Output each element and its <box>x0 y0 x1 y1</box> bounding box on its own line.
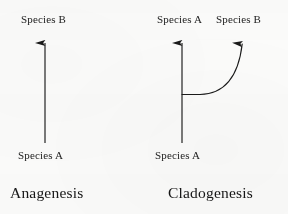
cladogenesis-arrow-group <box>182 43 242 143</box>
anagenesis-descendant-label: Species B <box>21 13 66 26</box>
cladogenesis-ancestor-label: Species A <box>155 149 200 162</box>
anagenesis-ancestor-label: Species A <box>18 149 63 162</box>
figure-canvas: Species B Species A Anagenesis Species A… <box>0 0 288 214</box>
diagram-drawing <box>0 0 288 214</box>
cladogenesis-branch-arrow <box>182 44 242 95</box>
cladogenesis-caption: Cladogenesis <box>168 184 253 202</box>
cladogenesis-descendant-b-label: Species B <box>216 13 261 26</box>
anagenesis-caption: Anagenesis <box>10 184 83 202</box>
cladogenesis-descendant-a-label: Species A <box>157 13 202 26</box>
